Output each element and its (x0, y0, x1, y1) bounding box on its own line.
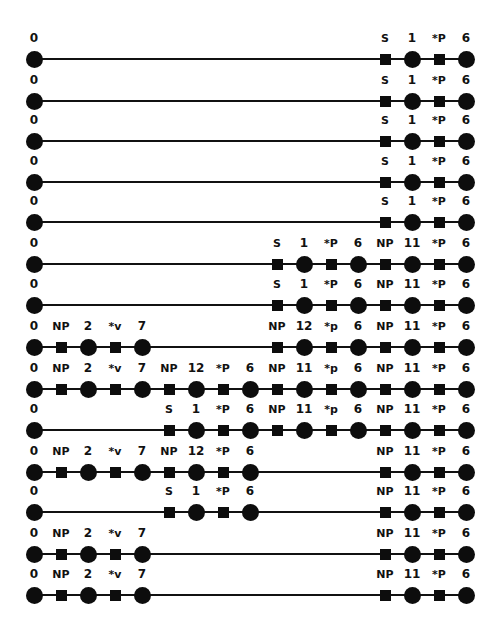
state-circle-icon (404, 256, 421, 273)
state-label: 7 (127, 527, 157, 539)
state-label: 1 (289, 237, 319, 249)
connector-line (34, 181, 466, 183)
transition-label: *v (100, 321, 130, 333)
state-label: 11 (397, 445, 427, 457)
state-label: 6 (451, 278, 481, 290)
transition-square-icon (56, 590, 67, 601)
state-label: 2 (73, 320, 103, 332)
state-label: 6 (451, 362, 481, 374)
transition-square-icon (272, 384, 283, 395)
state-circle-icon (458, 546, 475, 563)
state-label: 6 (451, 445, 481, 457)
state-circle-icon (404, 504, 421, 521)
state-label: 6 (343, 278, 373, 290)
state-circle-icon (458, 256, 475, 273)
state-label: 0 (19, 32, 49, 44)
state-label: 0 (19, 155, 49, 167)
state-label: 11 (397, 403, 427, 415)
state-circle-icon (80, 587, 97, 604)
state-circle-icon (296, 256, 313, 273)
transition-label: *p (316, 404, 346, 416)
state-label: 6 (235, 362, 265, 374)
state-label: 2 (73, 527, 103, 539)
state-label: 0 (19, 403, 49, 415)
transition-square-icon (380, 384, 391, 395)
transition-label: NP (46, 446, 76, 458)
state-circle-icon (26, 504, 43, 521)
transition-square-icon (110, 384, 121, 395)
state-label: 0 (19, 114, 49, 126)
state-circle-icon (26, 51, 43, 68)
state-circle-icon (296, 381, 313, 398)
state-label: 7 (127, 568, 157, 580)
state-label: 6 (451, 320, 481, 332)
transition-square-icon (218, 467, 229, 478)
state-label: 6 (451, 568, 481, 580)
state-circle-icon (26, 256, 43, 273)
state-label: 12 (289, 320, 319, 332)
transition-square-icon (272, 425, 283, 436)
state-circle-icon (80, 339, 97, 356)
state-circle-icon (404, 464, 421, 481)
state-label: 6 (343, 237, 373, 249)
state-circle-icon (26, 339, 43, 356)
transition-square-icon (164, 467, 175, 478)
transition-square-icon (380, 549, 391, 560)
transition-label: NP (370, 446, 400, 458)
transition-square-icon (380, 300, 391, 311)
state-circle-icon (296, 339, 313, 356)
state-circle-icon (458, 381, 475, 398)
state-circle-icon (26, 381, 43, 398)
state-circle-icon (404, 93, 421, 110)
state-label: 1 (397, 114, 427, 126)
state-label: 0 (19, 320, 49, 332)
transition-square-icon (434, 217, 445, 228)
state-label: 0 (19, 74, 49, 86)
transition-label: NP (370, 279, 400, 291)
state-circle-icon (458, 587, 475, 604)
transition-label: *P (208, 486, 238, 498)
transition-label: S (262, 238, 292, 250)
state-circle-icon (458, 504, 475, 521)
transition-label: S (154, 404, 184, 416)
state-circle-icon (458, 174, 475, 191)
state-circle-icon (350, 297, 367, 314)
transition-label: NP (370, 238, 400, 250)
transition-label: *P (424, 404, 454, 416)
state-sequence-diagram: 0S1*P60S1*P60S1*P60S1*P60S1*P60S1*P6NP11… (0, 0, 502, 629)
state-label: 7 (127, 445, 157, 457)
transition-label: NP (370, 321, 400, 333)
state-label: 6 (451, 155, 481, 167)
state-circle-icon (134, 381, 151, 398)
transition-label: *P (424, 321, 454, 333)
state-circle-icon (80, 381, 97, 398)
transition-square-icon (164, 384, 175, 395)
transition-label: *P (424, 446, 454, 458)
state-label: 6 (451, 403, 481, 415)
transition-square-icon (218, 384, 229, 395)
state-circle-icon (404, 174, 421, 191)
state-circle-icon (404, 297, 421, 314)
transition-square-icon (56, 549, 67, 560)
transition-label: *P (424, 528, 454, 540)
transition-label: NP (154, 363, 184, 375)
state-label: 7 (127, 362, 157, 374)
state-circle-icon (350, 339, 367, 356)
transition-square-icon (326, 384, 337, 395)
state-label: 6 (235, 485, 265, 497)
state-circle-icon (404, 381, 421, 398)
transition-label: *v (100, 528, 130, 540)
state-label: 6 (451, 114, 481, 126)
state-label: 11 (397, 485, 427, 497)
state-circle-icon (26, 546, 43, 563)
state-label: 0 (19, 278, 49, 290)
transition-label: *P (424, 238, 454, 250)
transition-square-icon (434, 342, 445, 353)
transition-label: *P (208, 404, 238, 416)
transition-square-icon (164, 425, 175, 436)
transition-label: *P (424, 115, 454, 127)
state-circle-icon (458, 422, 475, 439)
state-label: 0 (19, 362, 49, 374)
state-circle-icon (242, 464, 259, 481)
transition-square-icon (380, 507, 391, 518)
